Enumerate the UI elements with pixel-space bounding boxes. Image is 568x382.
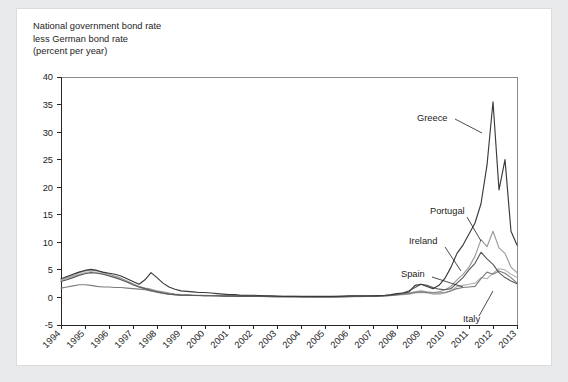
- y-tick-label: 35: [43, 100, 53, 110]
- x-tick-label: 2013: [497, 328, 519, 350]
- y-tick-label: 25: [43, 155, 53, 165]
- x-tick-label: 2008: [377, 328, 399, 350]
- y-tick-label: 30: [43, 128, 53, 138]
- series-line-italy: [61, 271, 517, 297]
- series-line-greece: [61, 102, 517, 297]
- x-tick-label: 2010: [425, 328, 447, 350]
- x-tick-label: 2001: [209, 328, 231, 350]
- x-tick-label: 1996: [89, 328, 111, 350]
- series-line-ireland: [61, 252, 517, 297]
- x-tick-label: 2004: [281, 328, 303, 350]
- annotation-label-portugal: Portugal: [430, 206, 465, 216]
- x-tick-label: 2003: [257, 328, 279, 350]
- x-tick-label: 2005: [305, 328, 327, 350]
- y-tick-label: 10: [43, 238, 53, 248]
- y-tick-label: 20: [43, 183, 53, 193]
- y-tick-label: 40: [43, 72, 53, 82]
- y-tick-label: -5: [45, 320, 53, 330]
- x-tick-label: 2012: [473, 328, 495, 350]
- y-tick-label: 0: [48, 293, 53, 303]
- data-series-group: [61, 102, 517, 297]
- x-tick-label: 1999: [161, 328, 183, 350]
- x-tick-label: 2011: [449, 328, 470, 349]
- y-tick-label: 15: [43, 210, 53, 220]
- x-tick-label: 2009: [401, 328, 423, 350]
- annotation-label-greece: Greece: [417, 113, 448, 123]
- y-tick-label: 5: [48, 265, 53, 275]
- y-axis-ticks: -50510152025303540: [43, 72, 61, 330]
- annotation-label-italy: Italy: [463, 314, 480, 324]
- annotation-leader-portugal: [467, 217, 481, 241]
- x-tick-label: 1998: [137, 328, 159, 350]
- x-tick-label: 2002: [233, 328, 255, 350]
- annotation-label-spain: Spain: [401, 269, 425, 279]
- x-tick-label: 1997: [113, 328, 135, 350]
- annotation-label-ireland: Ireland: [409, 236, 437, 246]
- x-tick-label: 1994: [41, 328, 63, 350]
- x-axis-ticks: 1994199519961997199819992000200120022003…: [41, 325, 519, 350]
- x-tick-label: 2007: [353, 328, 375, 350]
- figure-card: National government bond rate less Germa…: [17, 9, 551, 365]
- x-tick-label: 2000: [185, 328, 207, 350]
- annotation-leader-italy: [479, 291, 493, 316]
- annotation-leader-greece: [455, 119, 482, 133]
- line-chart: -50510152025303540 199419951996199719981…: [17, 9, 551, 365]
- plot-area: -50510152025303540 199419951996199719981…: [17, 9, 551, 365]
- series-line-portugal: [61, 231, 517, 296]
- x-tick-label: 1995: [65, 328, 87, 350]
- x-tick-label: 2006: [329, 328, 351, 350]
